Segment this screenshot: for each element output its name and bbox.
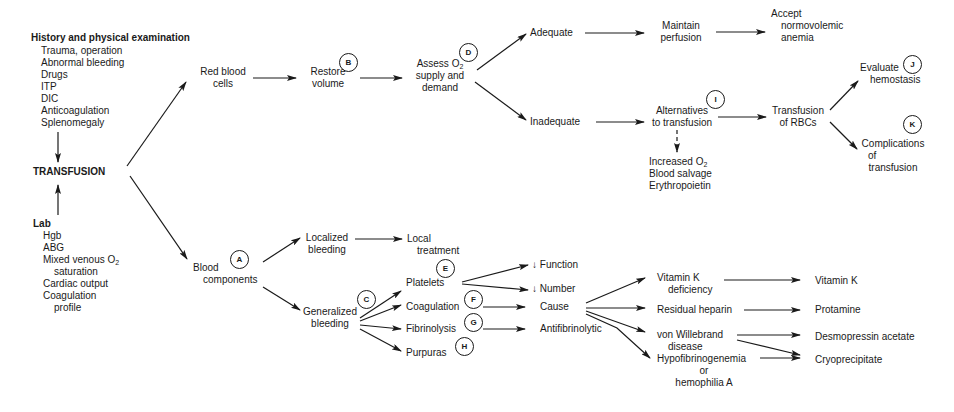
generalized-bleeding-node: Generalizedbleeding xyxy=(298,306,362,330)
lab-item: Hgb xyxy=(43,230,61,242)
history-item: Anticoagulation xyxy=(41,105,109,117)
protamine-treatment: Protamine xyxy=(815,304,861,316)
history-item: Splenomegaly xyxy=(41,117,104,129)
red-blood-cells-node: Red bloodcells xyxy=(193,66,253,90)
platelets-node: Platelets xyxy=(406,277,444,289)
marker-j: J xyxy=(903,55,922,74)
cause-node: Cause xyxy=(540,301,569,313)
lab-item: Mixed venous O2 xyxy=(43,254,119,266)
connector-arrows xyxy=(0,0,954,412)
marker-g: G xyxy=(464,313,483,332)
history-item: ITP xyxy=(41,81,57,93)
antifibrinolytic-node: Antifibrinolytic xyxy=(540,323,602,335)
marker-i: I xyxy=(706,90,725,109)
local-treatment-node: Localtreatment xyxy=(407,233,459,257)
vitamin-k-treatment: Vitamin K xyxy=(815,275,858,287)
lab-item: Coagulation xyxy=(43,290,96,302)
number-node: ↓ Number xyxy=(532,283,575,295)
marker-d: D xyxy=(459,43,478,62)
marker-c: C xyxy=(357,290,376,309)
marker-b: B xyxy=(339,53,358,72)
von-willebrand-node: von Willebranddisease xyxy=(657,329,723,353)
marker-f: F xyxy=(464,290,483,309)
adequate-node: Adequate xyxy=(530,27,573,39)
inadequate-node: Inadequate xyxy=(530,116,580,128)
cryoprecipitate-treatment: Cryoprecipitate xyxy=(815,354,882,366)
coagulation-node: Coagulation xyxy=(406,301,459,313)
function-node: ↓ Function xyxy=(532,259,578,271)
alternative-options: Increased O2Blood salvageErythropoietin xyxy=(649,156,712,192)
desmopressin-treatment: Desmopressin acetate xyxy=(815,331,915,343)
accept-anemia-node: Acceptnormovolemicanemia xyxy=(771,8,843,44)
fibrinolysis-node: Fibrinolysis xyxy=(406,323,456,335)
lab-item: profile xyxy=(54,302,81,314)
history-item: Drugs xyxy=(41,69,68,81)
lab-heading: Lab xyxy=(33,218,51,230)
transfusion-label: TRANSFUSION xyxy=(33,166,105,178)
history-item: DIC xyxy=(41,93,58,105)
history-item: Abnormal bleeding xyxy=(41,57,124,69)
maintain-perfusion-node: Maintainperfusion xyxy=(648,20,714,44)
residual-heparin-node: Residual heparin xyxy=(657,304,732,316)
marker-k: K xyxy=(903,115,922,134)
marker-e: E xyxy=(436,259,455,278)
blood-components-node: Bloodcomponents xyxy=(193,262,257,286)
assess-o2-node: Assess O2supply anddemand xyxy=(405,58,475,94)
lab-item: ABG xyxy=(43,242,64,254)
history-heading: History and physical examination xyxy=(31,32,190,44)
vitk-deficiency-node: Vitamin Kdeficiency xyxy=(657,272,712,296)
purpuras-node: Purpuras xyxy=(406,347,447,359)
hypofibrinogenemia-node: Hypofibrinogenemiaorhemophilia A xyxy=(652,353,756,389)
transfusion-rbcs-node: Transfusionof RBCs xyxy=(768,105,828,129)
marker-h: H xyxy=(455,337,474,356)
localized-bleeding-node: Localizedbleeding xyxy=(298,232,356,256)
alternatives-node: Alternativesto transfusion xyxy=(646,105,718,129)
marker-a: A xyxy=(230,250,249,269)
lab-item: Cardiac output xyxy=(43,278,108,290)
lab-item: saturation xyxy=(54,266,98,278)
complications-node: Complicationsoftransfusion xyxy=(858,138,928,174)
history-item: Trauma, operation xyxy=(41,45,122,57)
